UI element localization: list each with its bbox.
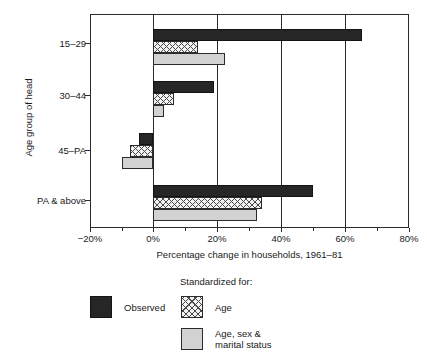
x-tick-mark-minor-50: [313, 228, 314, 231]
x-tick-label-60: 60%: [323, 233, 367, 244]
bar-45-pa-age: [130, 145, 153, 157]
x-tick-mark-minor-neg10: [122, 228, 123, 231]
y-axis-title: Age group of head: [23, 43, 34, 193]
bar-pa-above-observed: [153, 185, 313, 197]
x-tick-label-20: 20%: [195, 233, 239, 244]
legend-swatch-age: [181, 296, 203, 318]
bars-layer: [91, 15, 408, 227]
bar-pa-above-age: [153, 197, 262, 209]
legend-heading: Standardized for:: [180, 276, 252, 287]
x-axis-title: Percentage change in households, 1961–81: [90, 249, 409, 260]
legend-label-observed: Observed: [124, 302, 165, 313]
bar-pa-above-age-sex-marital: [153, 209, 257, 221]
bar-30-44-age-sex-marital: [153, 105, 164, 117]
x-tick-mark-60: [345, 228, 346, 232]
bar-45-pa-age-sex-marital: [122, 157, 153, 169]
bar-45-pa-observed: [139, 133, 153, 145]
bar-30-44-observed: [153, 81, 214, 93]
x-tick-mark-40: [281, 228, 282, 232]
legend-swatch-observed: [90, 296, 112, 318]
x-tick-mark-minor-30: [249, 228, 250, 231]
x-tick-mark-20: [217, 228, 218, 232]
x-tick-mark-80: [409, 228, 410, 232]
legend-label-age-sex-marital: Age, sex & marital status: [215, 328, 272, 350]
legend-label-age: Age: [215, 302, 232, 313]
x-tick-mark-minor-70: [377, 228, 378, 231]
x-tick-mark-minor-10: [185, 228, 186, 231]
x-tick-mark-neg20: [90, 228, 91, 232]
x-tick-label-80: 80%: [387, 233, 427, 244]
y-tick-label-2: 45–PA: [58, 145, 86, 156]
x-tick-mark-0: [153, 228, 154, 232]
bar-chart: Age group of head 15–29 30–44 45–PA PA &…: [0, 0, 427, 357]
y-tick-label-0: 15–29: [60, 38, 86, 49]
bar-30-44-age: [153, 93, 174, 105]
x-tick-label-neg20: −20%: [68, 233, 112, 244]
plot-area: [90, 14, 409, 228]
y-tick-label-1: 30–44: [60, 90, 86, 101]
x-tick-label-40: 40%: [259, 233, 303, 244]
bar-15-29-age: [153, 41, 198, 53]
x-tick-label-0: 0%: [131, 233, 175, 244]
bar-15-29-observed: [153, 29, 362, 41]
chart-legend: Standardized for: Observed Age Age, sex …: [0, 276, 427, 357]
legend-swatch-age-sex-marital: [181, 328, 203, 350]
bar-15-29-age-sex-marital: [153, 53, 225, 65]
y-tick-label-3: PA & above: [37, 195, 86, 206]
